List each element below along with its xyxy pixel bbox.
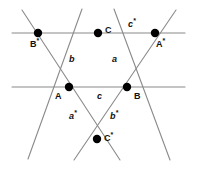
segment-label-a-star: a* [69, 112, 77, 121]
point-B-star [34, 29, 42, 37]
point-C-star [93, 135, 101, 143]
point-B [123, 83, 131, 91]
segment-label-a: a [112, 55, 117, 64]
point-label-B: B [134, 92, 141, 101]
segment-label-b-star: b* [110, 112, 118, 121]
point-label-C: C [105, 26, 112, 35]
point-label-A: A [55, 92, 62, 101]
figure-canvas [0, 0, 197, 169]
segment-label-b: b [69, 55, 75, 64]
point-label-A-star: A* [156, 40, 165, 49]
point-label-C-star: C* [104, 134, 113, 143]
point-C [94, 29, 102, 37]
point-label-B-star: B* [30, 40, 39, 49]
point-A-star [151, 29, 159, 37]
segment-label-c-star: c* [128, 20, 136, 29]
geometry-figure: B*CA*ABC*bacc*a*b* [0, 0, 197, 169]
segment-label-c: c [97, 92, 102, 101]
point-A [65, 83, 73, 91]
